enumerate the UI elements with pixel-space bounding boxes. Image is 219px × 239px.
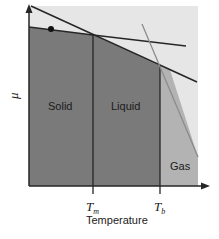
phase-diagram: Solid Liquid Gas μ Tm Tb Temperature [0,0,219,239]
liquid-label: Liquid [111,100,140,112]
gas-label: Gas [170,160,191,172]
x-axis-arrow-icon [201,183,210,190]
state-point-marker [48,26,54,32]
y-axis-label: μ [6,92,21,100]
x-axis-label: Temperature [86,214,148,226]
solid-label: Solid [48,100,72,112]
tb-tick-label: Tb [154,199,165,216]
